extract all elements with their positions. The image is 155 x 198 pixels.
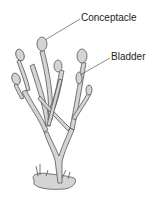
bladder-label: Bladder: [111, 52, 145, 62]
tip-center: [54, 60, 62, 72]
conceptacle-label: Conceptacle: [81, 13, 137, 23]
tip-right-lower: [86, 85, 92, 95]
conceptacle-leader: [45, 19, 80, 40]
fucus-illustration: [0, 0, 155, 198]
tip-left-lower: [10, 72, 22, 86]
tip-top-center: [37, 37, 47, 51]
bladder: [76, 72, 82, 84]
tip-right: [77, 49, 87, 63]
fucus-diagram: Conceptacle Bladder: [0, 0, 155, 198]
